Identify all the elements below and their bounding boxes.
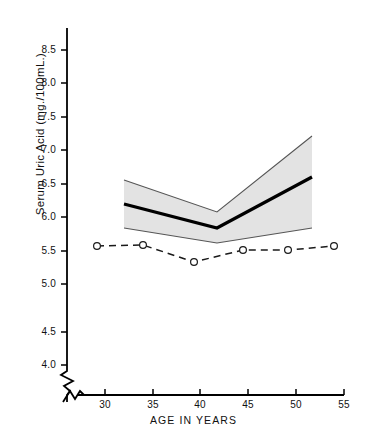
y-tick-label: 5.0 [26,278,56,289]
data-point-marker [285,247,292,254]
chart-canvas [0,0,379,446]
x-axis-title: AGE IN YEARS [150,414,237,426]
chart-figure: 8.5 8.0 7.5 7.0 6.5 6.0 5.5 5.0 4.5 4.0 … [0,0,379,446]
data-point-marker [140,242,147,249]
x-tick-label: 40 [185,399,215,410]
data-point-marker [191,259,198,266]
y-tick-label: 4.0 [26,359,56,370]
observed-means-markers [94,242,338,266]
data-point-marker [331,243,338,250]
data-point-marker [94,243,101,250]
data-point-marker [240,247,247,254]
x-tick-label: 45 [233,399,263,410]
x-tick-label: 30 [90,399,120,410]
x-tick-label: 35 [138,399,168,410]
y-tick-label: 4.5 [26,326,56,337]
observed-means-line [97,245,334,262]
x-tick-label: 55 [329,399,359,410]
x-tick-label: 50 [281,399,311,410]
y-axis-title: Serum Uric Acid (mg./100mL.) [34,14,46,254]
